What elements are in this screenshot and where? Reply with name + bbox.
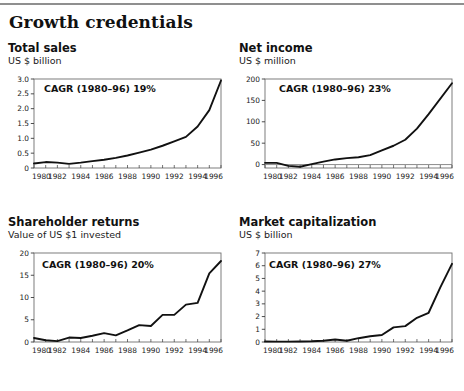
x-tick-label: 1992 — [396, 346, 415, 355]
x-tick-label: 1990 — [372, 346, 391, 355]
plot-frame — [265, 79, 452, 168]
y-tick-label: 2 — [255, 312, 260, 321]
x-tick-label: 1996 — [204, 172, 223, 181]
x-tick-label: 1996 — [204, 346, 223, 355]
x-tick-label: 1988 — [349, 172, 368, 181]
chart-panel-total-sales: Total sales US $ billion 00.51.01.52.02.… — [8, 42, 226, 189]
y-tick-label: 20 — [20, 249, 30, 258]
chart-panel-shareholder-returns: Shareholder returns Value of US $1 inves… — [8, 216, 226, 363]
page-title: Growth credentials — [9, 12, 193, 32]
y-tick-label: 6 — [255, 261, 260, 270]
chart-area-market-capitalization: 0123456719801982198419861988199019921994… — [239, 245, 457, 363]
x-tick-label: 1992 — [396, 172, 415, 181]
chart-svg-market-capitalization: 0123456719801982198419861988199019921994… — [239, 245, 457, 363]
x-tick-label: 1992 — [165, 172, 184, 181]
y-tick-label: 200 — [246, 75, 260, 84]
chart-title-total-sales: Total sales — [8, 42, 226, 55]
y-tick-label: 3.0 — [17, 75, 29, 84]
y-tick-label: 15 — [20, 271, 30, 280]
x-tick-label: 1986 — [95, 346, 114, 355]
figure-page: Growth credentials Total sales US $ bill… — [0, 0, 464, 391]
x-tick-label: 1984 — [302, 346, 321, 355]
y-tick-label: 3 — [255, 299, 260, 308]
x-tick-label: 1982 — [48, 346, 67, 355]
chart-subtitle-net-income: US $ million — [239, 55, 457, 67]
chart-area-shareholder-returns: 0510152019801982198419861988199019921994… — [8, 245, 226, 363]
x-tick-label: 1990 — [141, 346, 160, 355]
plot-frame — [265, 253, 452, 342]
y-tick-label: 4 — [255, 287, 260, 296]
x-tick-label: 1992 — [165, 346, 184, 355]
x-tick-label: 1986 — [326, 172, 345, 181]
y-tick-label: 100 — [246, 117, 260, 126]
chart-area-total-sales: 00.51.01.52.02.53.0198019821984198619881… — [8, 71, 226, 189]
chart-title-shareholder-returns: Shareholder returns — [8, 216, 226, 229]
y-tick-label: 1 — [255, 325, 260, 334]
chart-svg-net-income: 0501001502001980198219841986198819901992… — [239, 71, 457, 189]
chart-panel-net-income: Net income US $ million 0501001502001980… — [239, 42, 457, 189]
y-tick-label: 50 — [251, 139, 261, 148]
y-tick-label: 0 — [255, 160, 260, 169]
data-line — [34, 261, 221, 341]
y-tick-label: 7 — [255, 249, 260, 258]
y-tick-label: 5 — [24, 315, 29, 324]
data-line — [265, 83, 452, 166]
x-tick-label: 1988 — [118, 346, 137, 355]
chart-svg-total-sales: 00.51.01.52.02.53.0198019821984198619881… — [8, 71, 226, 189]
x-tick-label: 1984 — [302, 172, 321, 181]
data-line — [265, 264, 452, 342]
chart-subtitle-market-capitalization: US $ billion — [239, 229, 457, 241]
y-tick-label: 0 — [255, 338, 260, 347]
chart-title-net-income: Net income — [239, 42, 457, 55]
y-tick-label: 0 — [24, 164, 29, 173]
x-tick-label: 1982 — [48, 172, 67, 181]
y-tick-label: 10 — [20, 293, 30, 302]
chart-subtitle-shareholder-returns: Value of US $1 invested — [8, 229, 226, 241]
x-tick-label: 1982 — [279, 172, 298, 181]
x-tick-label: 1996 — [435, 346, 454, 355]
y-tick-label: 1.0 — [17, 134, 29, 143]
x-tick-label: 1990 — [141, 172, 160, 181]
y-tick-label: 5 — [255, 274, 260, 283]
x-tick-label: 1984 — [71, 346, 90, 355]
chart-area-net-income: 0501001502001980198219841986198819901992… — [239, 71, 457, 189]
y-tick-label: 1.5 — [17, 119, 29, 128]
chart-subtitle-total-sales: US $ billion — [8, 55, 226, 67]
plot-frame — [34, 253, 221, 342]
chart-svg-shareholder-returns: 0510152019801982198419861988199019921994… — [8, 245, 226, 363]
x-tick-label: 1990 — [372, 172, 391, 181]
data-line — [34, 80, 221, 163]
chart-panel-market-capitalization: Market capitalization US $ billion 01234… — [239, 216, 457, 363]
y-tick-label: 150 — [246, 96, 260, 105]
x-tick-label: 1982 — [279, 346, 298, 355]
chart-title-market-capitalization: Market capitalization — [239, 216, 457, 229]
y-tick-label: 0 — [24, 338, 29, 347]
x-tick-label: 1986 — [326, 346, 345, 355]
y-tick-label: 0.5 — [17, 149, 29, 158]
x-tick-label: 1986 — [95, 172, 114, 181]
x-tick-label: 1988 — [349, 346, 368, 355]
x-tick-label: 1984 — [71, 172, 90, 181]
x-tick-label: 1996 — [435, 172, 454, 181]
y-tick-label: 2.5 — [17, 89, 29, 98]
x-tick-label: 1988 — [118, 172, 137, 181]
top-divider-rule — [0, 3, 464, 5]
y-tick-label: 2.0 — [17, 104, 29, 113]
